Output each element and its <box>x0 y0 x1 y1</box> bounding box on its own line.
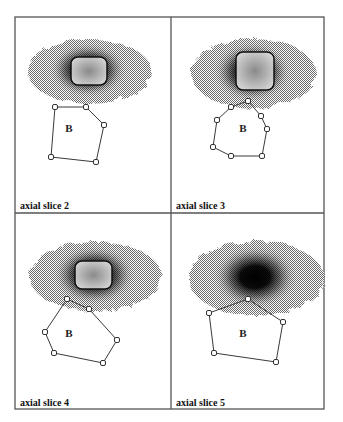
axial-slices-figure: Baxial slice 2Baxial slice 3Baxial slice… <box>0 0 343 422</box>
polygon-vertex-handle[interactable] <box>207 311 212 316</box>
region-label: B <box>239 122 247 134</box>
polygon-vertex-handle[interactable] <box>229 154 234 159</box>
polygon-vertex-handle[interactable] <box>49 155 54 160</box>
polygon-vertex-handle[interactable] <box>94 160 99 165</box>
polygon-vertex-handle[interactable] <box>87 307 92 312</box>
blob-core <box>75 261 112 289</box>
slice-label: axial slice 2 <box>20 200 69 211</box>
region-label: B <box>65 327 73 339</box>
polygon-vertex-handle[interactable] <box>274 360 279 365</box>
region-b-outline <box>51 107 104 162</box>
polygon-vertex-handle[interactable] <box>212 351 217 356</box>
polygon-vertex-handle[interactable] <box>101 361 106 366</box>
panel-slice4: Baxial slice 4 <box>20 240 160 408</box>
polygon-vertex-handle[interactable] <box>281 320 286 325</box>
polygon-vertex-handle[interactable] <box>65 297 70 302</box>
polygon-vertex-handle[interactable] <box>246 99 251 104</box>
region-label: B <box>65 122 73 134</box>
polygon-vertex-handle[interactable] <box>246 297 251 302</box>
polygon-vertex-handle[interactable] <box>84 105 89 110</box>
polygon-vertex-handle[interactable] <box>260 154 265 159</box>
polygon-vertex-handle[interactable] <box>215 118 220 123</box>
blob-core <box>71 57 107 85</box>
polygon-vertex-handle[interactable] <box>115 338 120 343</box>
blob-core <box>236 52 274 90</box>
polygon-vertex-handle[interactable] <box>102 123 107 128</box>
polygon-vertex-handle[interactable] <box>43 330 48 335</box>
region-label: B <box>239 327 247 339</box>
polygon-vertex-handle[interactable] <box>259 114 264 119</box>
polygon-vertex-handle[interactable] <box>211 145 216 150</box>
slice-label: axial slice 5 <box>176 397 225 408</box>
slice-label: axial slice 3 <box>176 200 225 211</box>
blob-dark-region <box>213 246 297 309</box>
panel-slice2: Baxial slice 2 <box>20 38 150 211</box>
polygon-vertex-handle[interactable] <box>52 351 57 356</box>
slice-label: axial slice 4 <box>20 397 69 408</box>
panel-slice5: Baxial slice 5 <box>176 240 323 408</box>
polygon-vertex-handle[interactable] <box>265 127 270 132</box>
polygon-vertex-handle[interactable] <box>229 105 234 110</box>
polygon-vertex-handle[interactable] <box>53 105 58 110</box>
panel-slice3: Baxial slice 3 <box>176 37 314 211</box>
